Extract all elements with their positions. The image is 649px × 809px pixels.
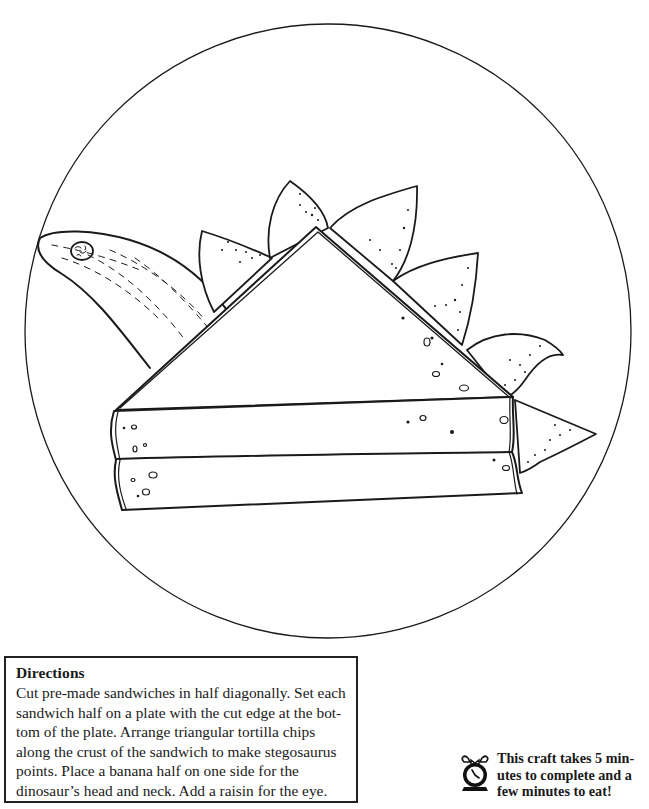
time-note-line: This craft takes 5 min- <box>497 750 634 767</box>
time-note-text: This craft takes 5 min- utes to complete… <box>497 750 634 800</box>
directions-line: sandwich half on a plate with the cut ed… <box>16 703 352 723</box>
stegosaurus-sandwich-illustration <box>0 0 649 650</box>
directions-line: Cut pre-made sandwiches in half diagonal… <box>16 683 352 703</box>
raisin-eye <box>71 242 93 260</box>
directions-line: points. Place a banana half on one side … <box>16 761 352 781</box>
time-note-line: few minutes to eat! <box>497 783 634 800</box>
directions-line: along the crust of the sandwich to make … <box>16 742 352 762</box>
directions-box: Directions Cut pre-made sandwiches in ha… <box>4 656 358 803</box>
directions-title: Directions <box>16 664 85 682</box>
directions-text: Cut pre-made sandwiches in half diagonal… <box>16 683 352 801</box>
directions-line: tom of the plate. Arrange triangular tor… <box>16 722 352 742</box>
alarm-clock-icon <box>458 754 492 794</box>
time-note: This craft takes 5 min- utes to complete… <box>455 750 649 806</box>
time-note-line: utes to complete and a <box>497 767 634 784</box>
directions-line: dinosaur’s head and neck. Add a raisin f… <box>16 781 352 801</box>
